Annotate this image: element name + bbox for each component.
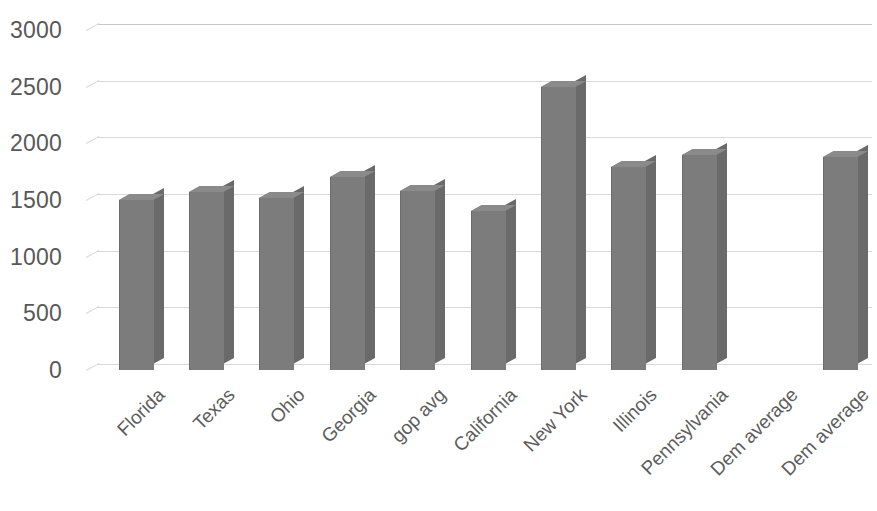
axis-depth-connector xyxy=(86,136,99,144)
bar-column xyxy=(823,157,857,370)
bar-column xyxy=(611,167,645,370)
y-axis-tick-label: 2500 xyxy=(0,73,74,100)
x-axis-tick-label: Ohio xyxy=(266,384,310,428)
y-axis: 300025002000150010005000 xyxy=(0,0,74,511)
x-axis-tick-label: New York xyxy=(519,384,591,456)
x-axis-tick-label: Georgia xyxy=(317,384,380,447)
bar-side-face xyxy=(364,165,375,364)
bar-chart: 300025002000150010005000 FloridaTexasOhi… xyxy=(0,0,877,511)
y-axis-tick-label: 500 xyxy=(0,300,74,327)
bar-front-face xyxy=(400,191,435,370)
gridline xyxy=(97,24,872,25)
bar-side-face xyxy=(575,75,586,364)
bar-column xyxy=(541,87,575,370)
bar-column xyxy=(400,191,434,370)
y-axis-tick-label: 3000 xyxy=(0,17,74,44)
bar-column xyxy=(682,155,716,370)
y-axis-tick-label: 1500 xyxy=(0,187,74,214)
x-axis-tick-label: Florida xyxy=(113,384,170,441)
gridline xyxy=(97,81,872,82)
axis-depth-connector xyxy=(86,250,99,258)
bar-column xyxy=(259,198,293,370)
bar-front-face xyxy=(682,155,717,370)
x-axis: FloridaTexasOhioGeorgiagop avgCalifornia… xyxy=(86,370,872,510)
bar-side-face xyxy=(153,188,164,364)
axis-depth-connector xyxy=(86,193,99,201)
bar-side-face xyxy=(645,155,656,364)
bar-side-face xyxy=(505,199,516,364)
bar-column xyxy=(471,211,505,370)
bar-front-face xyxy=(471,211,506,370)
axis-depth-connector xyxy=(86,23,99,31)
bar-column xyxy=(189,192,223,370)
bar-side-face xyxy=(293,186,304,364)
bar-front-face xyxy=(823,157,858,370)
bar-column xyxy=(330,177,364,370)
bar-front-face xyxy=(119,200,154,370)
plot-area xyxy=(86,30,872,370)
x-axis-tick-label: Illinois xyxy=(609,384,662,437)
axis-depth-connector xyxy=(86,306,99,314)
bar-front-face xyxy=(330,177,365,370)
bar-column xyxy=(119,200,153,370)
bar-side-face xyxy=(857,145,868,364)
axis-depth-connector xyxy=(86,80,99,88)
y-axis-tick-label: 0 xyxy=(0,357,74,384)
bar-front-face xyxy=(189,192,224,370)
bar-side-face xyxy=(434,179,445,364)
bar-front-face xyxy=(541,87,576,370)
y-axis-tick-label: 2000 xyxy=(0,130,74,157)
bar-side-face xyxy=(716,143,727,364)
x-axis-tick-label: gop avg xyxy=(387,384,450,447)
bar-side-face xyxy=(223,180,234,364)
x-axis-tick-label: California xyxy=(449,384,521,456)
gridline xyxy=(97,137,872,138)
bar-front-face xyxy=(611,167,646,370)
x-axis-tick-label: Texas xyxy=(189,384,240,435)
bar-front-face xyxy=(259,198,294,370)
y-axis-tick-label: 1000 xyxy=(0,243,74,270)
